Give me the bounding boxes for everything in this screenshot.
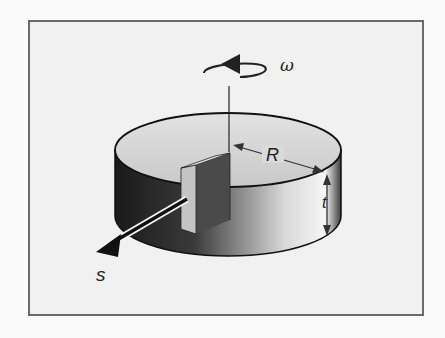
label-direction: s <box>96 264 106 286</box>
rotation-arrow-icon <box>204 54 266 77</box>
label-omega: ω <box>280 55 294 75</box>
label-thickness: t <box>322 194 326 212</box>
label-radius: R <box>266 145 279 166</box>
wedge-sample <box>181 153 230 234</box>
disk-diagram <box>0 0 445 338</box>
